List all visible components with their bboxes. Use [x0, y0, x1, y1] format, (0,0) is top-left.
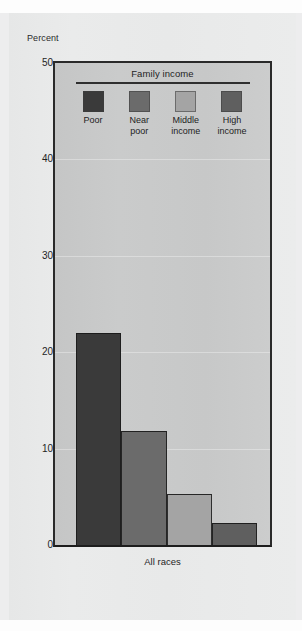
y-axis-title: Percent: [27, 33, 59, 43]
bar: [167, 494, 212, 545]
page-top-margin: [0, 0, 302, 13]
page-bottom-margin: [0, 620, 302, 631]
bar-group: [76, 63, 257, 545]
bar: [121, 431, 166, 545]
bar: [212, 523, 257, 545]
chart-figure: Percent 50403020100 Family income PoorNe…: [0, 0, 302, 631]
x-axis-category-label: All races: [53, 556, 272, 567]
bar: [76, 333, 121, 545]
plot-area: Family income PoorNear poorMiddle income…: [53, 61, 272, 547]
